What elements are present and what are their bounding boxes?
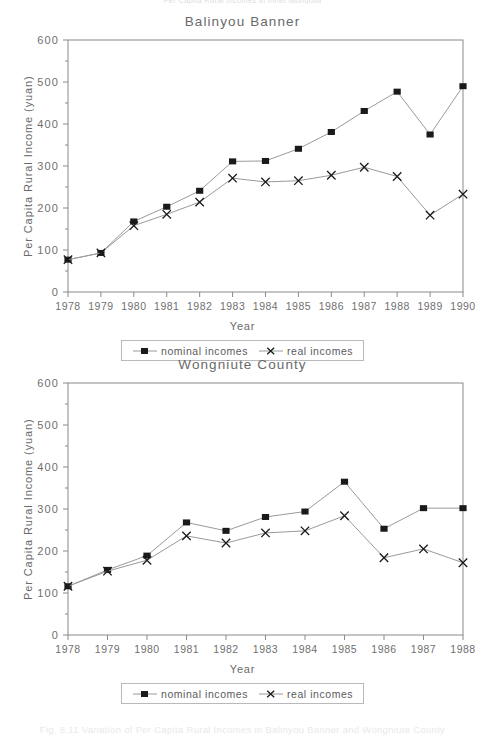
- cross-marker-icon: [258, 689, 284, 699]
- svg-text:1980: 1980: [134, 643, 159, 655]
- svg-text:300: 300: [37, 160, 59, 172]
- svg-text:1985: 1985: [332, 643, 357, 655]
- legend-entry-real: real incomes: [258, 688, 353, 700]
- svg-text:0: 0: [52, 286, 59, 298]
- svg-text:100: 100: [37, 587, 59, 599]
- figure-page: Per Capita Rural Incomes in Inner Mongol…: [0, 0, 485, 736]
- svg-text:500: 500: [37, 419, 59, 431]
- svg-text:1979: 1979: [95, 643, 120, 655]
- svg-text:1988: 1988: [450, 643, 475, 655]
- svg-text:1986: 1986: [371, 643, 396, 655]
- legend-entry-nominal: nominal incomes: [132, 688, 248, 700]
- svg-text:400: 400: [37, 118, 59, 130]
- svg-text:500: 500: [37, 76, 59, 88]
- svg-text:1983: 1983: [220, 300, 245, 312]
- cross-marker-icon: [258, 346, 284, 356]
- svg-text:1988: 1988: [384, 300, 409, 312]
- svg-text:1982: 1982: [213, 643, 238, 655]
- x-axis-label: Year: [0, 320, 485, 332]
- svg-text:1984: 1984: [253, 300, 278, 312]
- filled-square-marker-icon: [132, 689, 158, 699]
- svg-text:1981: 1981: [174, 643, 199, 655]
- svg-text:1987: 1987: [352, 300, 377, 312]
- svg-text:1983: 1983: [253, 643, 278, 655]
- legend-entry-real: real incomes: [258, 345, 353, 357]
- svg-text:1986: 1986: [319, 300, 344, 312]
- chart-wongniute-county: Wongniute County Per Capita Rural Income…: [0, 357, 485, 687]
- svg-text:1990: 1990: [450, 300, 475, 312]
- plot-area: 0100200300400500600197819791980198119821…: [0, 357, 485, 657]
- svg-text:200: 200: [37, 202, 59, 214]
- svg-text:1978: 1978: [55, 643, 80, 655]
- chart-balinyou-banner: Balinyou Banner Per Capita Rural Income …: [0, 14, 485, 344]
- svg-text:600: 600: [37, 34, 59, 46]
- legend-entry-nominal: nominal incomes: [132, 345, 248, 357]
- svg-text:300: 300: [37, 503, 59, 515]
- svg-text:1979: 1979: [88, 300, 113, 312]
- svg-text:1989: 1989: [417, 300, 442, 312]
- svg-text:1984: 1984: [292, 643, 317, 655]
- legend-label-nominal: nominal incomes: [161, 345, 248, 357]
- svg-text:1985: 1985: [286, 300, 311, 312]
- x-axis-label: Year: [0, 663, 485, 675]
- filled-square-marker-icon: [132, 346, 158, 356]
- legend-label-nominal: nominal incomes: [161, 688, 248, 700]
- svg-text:1982: 1982: [187, 300, 212, 312]
- svg-text:1987: 1987: [411, 643, 436, 655]
- plot-area: 0100200300400500600197819791980198119821…: [0, 14, 485, 314]
- svg-text:1980: 1980: [121, 300, 146, 312]
- svg-text:200: 200: [37, 545, 59, 557]
- svg-text:400: 400: [37, 461, 59, 473]
- svg-text:1978: 1978: [55, 300, 80, 312]
- svg-text:600: 600: [37, 377, 59, 389]
- legend-label-real: real incomes: [287, 345, 353, 357]
- legend-label-real: real incomes: [287, 688, 353, 700]
- svg-text:1981: 1981: [154, 300, 179, 312]
- legend: nominal incomes real incomes: [121, 683, 364, 704]
- clipped-header-text: Per Capita Rural Incomes in Inner Mongol…: [0, 0, 485, 4]
- figure-caption: Fig. 8.11 Variation of Per Capita Rural …: [0, 724, 485, 735]
- svg-text:0: 0: [52, 629, 59, 641]
- svg-text:100: 100: [37, 244, 59, 256]
